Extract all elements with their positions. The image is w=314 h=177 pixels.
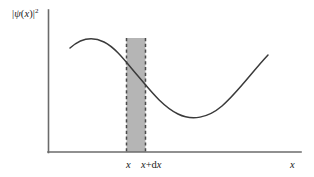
tick-label-band-right: x+dx [141,160,162,171]
y-label-exponent: 2 [35,7,39,15]
tick-label-band-left: x [126,160,131,171]
figure-container: |ψ(x)|2 x x+dx x [0,0,314,177]
plot-area [0,0,314,177]
probability-density-curve [70,39,268,118]
y-axis-label: |ψ(x)|2 [12,9,39,20]
y-label-psi: ψ [14,8,21,19]
probability-band-fill [127,38,146,152]
tick-xdx-tail: x [157,159,162,170]
x-axis-label: x [290,160,295,171]
tick-xdx-plus-d: +d [146,159,157,170]
